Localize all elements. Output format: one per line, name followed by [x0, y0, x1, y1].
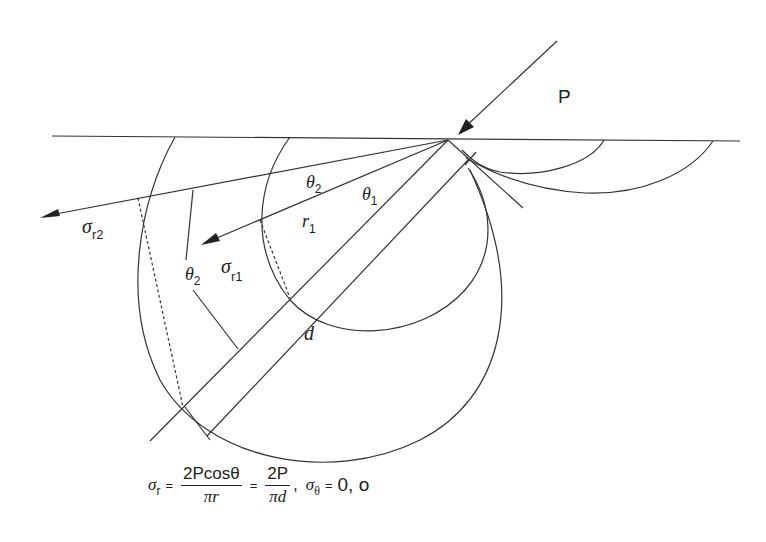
- sigma-r2-arrowhead: [40, 209, 60, 218]
- formula-rhs-value: 0, o: [338, 474, 370, 496]
- label-theta2-upper: θ2: [306, 172, 322, 196]
- theta2-mark-line: [186, 190, 193, 260]
- ray-theta1: [150, 140, 448, 441]
- formula-equals-1: =: [165, 478, 173, 493]
- diameter-line-d: [207, 160, 468, 436]
- tangent-line-right: [448, 140, 523, 208]
- formula-fraction-1: 2Pcosθ πr: [181, 464, 242, 507]
- fraction-1-denominator: πr: [202, 486, 221, 507]
- label-sigma-r2: σr2: [82, 215, 103, 242]
- theta2-mark-perp: [193, 290, 238, 349]
- ground-surface-line: [52, 136, 740, 141]
- label-theta2-lower: θ2: [185, 264, 201, 288]
- ray-sigma-r2: [45, 140, 448, 216]
- fraction-2-numerator: 2P: [265, 464, 290, 486]
- fraction-1-numerator: 2Pcosθ: [181, 464, 242, 486]
- stress-formula: σr = 2Pcosθ πr = 2P πd , σθ = 0, o: [148, 455, 369, 515]
- fraction-2-denominator: πd: [267, 486, 288, 507]
- crossing-tick-bottom: [185, 407, 210, 440]
- label-r1: r1: [302, 211, 316, 236]
- sigma-r1-arrowhead: [201, 233, 220, 245]
- stress-bulb-diagram: P σr2 σr1 θ2 θ1 r1 θ2 d: [0, 0, 766, 542]
- dashed-chord-outer: [138, 198, 183, 407]
- formula-equals-2: =: [250, 478, 258, 493]
- formula-sigma-theta: σθ: [306, 475, 320, 495]
- load-label-P: P: [558, 86, 571, 107]
- label-theta1: θ1: [362, 184, 378, 208]
- load-arrow-shaft: [463, 41, 557, 129]
- dashed-chord-inner: [260, 220, 290, 298]
- formula-equals-3: =: [325, 478, 333, 493]
- right-small-bulb: [462, 140, 604, 173]
- label-d: d: [304, 322, 315, 344]
- right-large-bulb: [466, 141, 713, 193]
- formula-lhs: σr: [148, 475, 160, 495]
- small-pressure-bulb: [262, 137, 488, 331]
- label-sigma-r1: σr1: [221, 255, 242, 284]
- formula-fraction-2: 2P πd: [265, 464, 290, 507]
- ray-sigma-r1: [205, 140, 448, 243]
- formula-comma: ,: [293, 475, 298, 495]
